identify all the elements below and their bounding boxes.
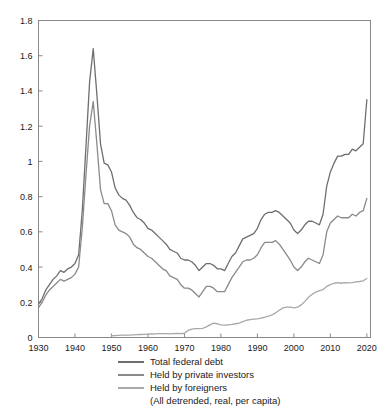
svg-text:1: 1 <box>27 157 32 167</box>
legend-item-held-by-foreigners: Held by foreigners <box>118 381 378 394</box>
svg-text:1960: 1960 <box>138 343 158 353</box>
legend-label-held-by-foreigners: Held by foreigners <box>150 381 227 394</box>
svg-text:2000: 2000 <box>284 343 304 353</box>
legend-item-total-federal-debt: Total federal debt <box>118 355 378 368</box>
legend-label-total-federal-debt: Total federal debt <box>150 355 223 368</box>
legend-swatch-total-federal-debt <box>118 361 144 363</box>
legend-label-held-by-private-investors: Held by private investors <box>150 368 254 381</box>
svg-text:0.2: 0.2 <box>20 298 33 308</box>
svg-text:2020: 2020 <box>357 343 377 353</box>
x-axis-tick-labels: 1930194019501960197019801990200020102020 <box>28 343 376 353</box>
svg-text:1.6: 1.6 <box>20 51 33 61</box>
chart-plot-area: 1930194019501960197019801990200020102020… <box>0 0 386 412</box>
svg-text:0: 0 <box>27 333 32 343</box>
data-series-group <box>39 49 367 336</box>
svg-text:1990: 1990 <box>247 343 267 353</box>
legend-item-held-by-private-investors: Held by private investors <box>118 368 378 381</box>
svg-text:1940: 1940 <box>65 343 85 353</box>
svg-text:0.8: 0.8 <box>20 192 33 202</box>
x-axis-ticks <box>39 334 367 338</box>
chart-legend: Total federal debt Held by private inves… <box>118 355 378 407</box>
svg-text:0.4: 0.4 <box>20 263 33 273</box>
svg-text:1980: 1980 <box>211 343 231 353</box>
svg-text:1.2: 1.2 <box>20 122 33 132</box>
svg-text:2010: 2010 <box>320 343 340 353</box>
svg-text:1930: 1930 <box>28 343 48 353</box>
svg-text:1.4: 1.4 <box>20 86 33 96</box>
chart-figure: 1930194019501960197019801990200020102020… <box>0 0 386 412</box>
svg-text:1970: 1970 <box>174 343 194 353</box>
legend-swatch-held-by-foreigners <box>118 387 144 389</box>
legend-swatch-held-by-private-investors <box>118 374 144 376</box>
y-axis-tick-labels: 00.20.40.60.811.21.41.61.8 <box>20 16 33 343</box>
y-axis-ticks <box>39 21 43 338</box>
legend-note: (All detrended, real, per capita) <box>150 394 378 407</box>
svg-text:0.6: 0.6 <box>20 227 33 237</box>
svg-text:1.8: 1.8 <box>20 16 33 26</box>
svg-text:1950: 1950 <box>101 343 121 353</box>
